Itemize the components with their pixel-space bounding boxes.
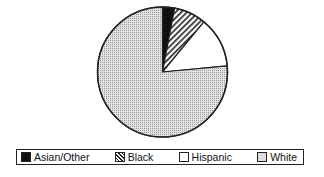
dotted-swatch-icon — [257, 152, 267, 162]
legend-item-white: White — [257, 151, 297, 163]
legend-item-asian-other: Asian/Other — [21, 151, 89, 163]
legend-label: Black — [128, 151, 154, 163]
legend-label: White — [270, 151, 297, 163]
legend-item-black: Black — [115, 151, 154, 163]
pie-chart — [0, 0, 324, 145]
blank-swatch-icon — [179, 152, 189, 162]
hatch-swatch-icon — [115, 152, 125, 162]
legend: Asian/Other Black Hispanic White — [16, 149, 304, 165]
legend-item-hispanic: Hispanic — [179, 151, 232, 163]
solid-swatch-icon — [21, 152, 31, 162]
legend-label: Hispanic — [192, 151, 232, 163]
legend-label: Asian/Other — [34, 151, 89, 163]
